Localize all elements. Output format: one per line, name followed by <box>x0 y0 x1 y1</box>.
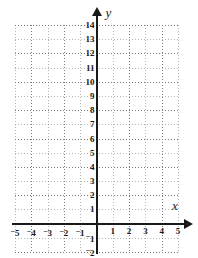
y-tick-label: 4 <box>90 162 95 171</box>
gridline-vertical <box>178 25 179 252</box>
y-tick-label: 12 <box>86 49 95 58</box>
x-tick-label: 2 <box>127 227 132 236</box>
y-tick-label: −2 <box>86 246 95 257</box>
x-tick-label: −5 <box>11 227 20 238</box>
x-tick-label: −2 <box>59 227 68 238</box>
y-tick-label: 1 <box>90 205 95 214</box>
y-tick-label: 11 <box>86 63 95 72</box>
x-tick-label: 5 <box>176 227 181 236</box>
x-axis-arrow-icon <box>184 219 193 229</box>
y-axis-line <box>96 14 98 254</box>
x-tick-label: 4 <box>159 227 164 236</box>
x-tick-label: −3 <box>43 227 52 238</box>
y-tick-label: 9 <box>90 91 95 100</box>
y-axis-label: y <box>106 5 112 21</box>
x-axis-label: x <box>172 198 178 214</box>
y-tick-label: 8 <box>90 106 95 115</box>
y-tick-label: 5 <box>90 148 95 157</box>
x-tick-label: 3 <box>143 227 148 236</box>
y-tick-label: 14 <box>86 21 95 30</box>
y-tick-label: 2 <box>90 191 95 200</box>
x-tick-label: 1 <box>111 227 116 236</box>
y-tick-label: 6 <box>90 134 95 143</box>
y-axis-arrow-icon <box>92 7 102 16</box>
y-tick-label: 10 <box>86 77 95 86</box>
y-tick-label: 7 <box>90 120 95 129</box>
x-axis-line <box>12 223 186 225</box>
x-tick-label: −1 <box>76 227 85 238</box>
coordinate-graph: y x 1413121110987654321−1−2 −5−4−3−2−112… <box>0 0 198 258</box>
y-tick-label: 3 <box>90 177 95 186</box>
y-tick-label: −1 <box>86 232 95 243</box>
x-tick-label: −4 <box>27 227 36 238</box>
y-tick-label: 13 <box>86 35 95 44</box>
